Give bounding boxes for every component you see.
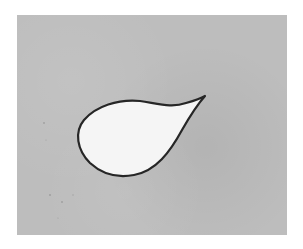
teardrop-drawing — [0, 0, 303, 249]
teardrop-shape — [78, 96, 205, 176]
scan-specks — [43, 122, 74, 218]
